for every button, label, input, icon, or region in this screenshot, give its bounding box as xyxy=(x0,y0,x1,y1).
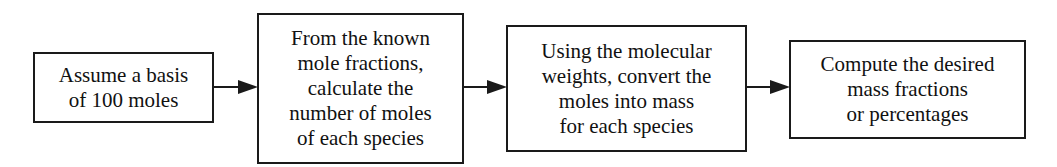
arrow-1-line xyxy=(213,86,239,88)
step-4-box: Compute the desired mass fractions or pe… xyxy=(789,40,1026,139)
step-3-text: Using the molecular weights, convert the… xyxy=(541,39,711,139)
arrow-3-head-icon xyxy=(770,80,790,94)
step-2-box: From the known mole fractions, calculate… xyxy=(257,13,464,164)
arrow-2-head-icon xyxy=(487,80,507,94)
step-1-box: Assume a basis of 100 moles xyxy=(33,52,214,123)
step-1-text: Assume a basis of 100 moles xyxy=(59,63,189,113)
arrow-1-head-icon xyxy=(238,80,258,94)
step-4-text: Compute the desired mass fractions or pe… xyxy=(821,52,995,127)
arrow-2-line xyxy=(463,86,488,88)
arrow-1-to-2 xyxy=(213,80,258,94)
arrow-2-to-3 xyxy=(463,80,507,94)
arrow-3-to-4 xyxy=(746,80,790,94)
step-3-box: Using the molecular weights, convert the… xyxy=(506,25,747,152)
arrow-3-line xyxy=(746,86,771,88)
step-2-text: From the known mole fractions, calculate… xyxy=(289,26,431,151)
